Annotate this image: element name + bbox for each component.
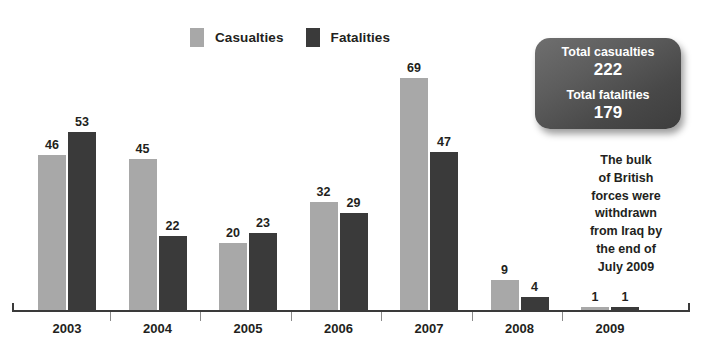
x-axis-line — [12, 310, 690, 312]
annotation-line-3: withdrawn — [556, 205, 696, 223]
bar-casualties-2005 — [219, 243, 247, 310]
bar-casualties-2006 — [310, 202, 338, 310]
bar-casualties-2003 — [38, 155, 66, 310]
bar-casualties-2004 — [129, 159, 157, 310]
bar-casualties-2007 — [400, 78, 428, 310]
bar-value-fatalities-2008: 4 — [515, 280, 555, 294]
x-axis-tick — [200, 312, 201, 321]
x-axis-tick — [291, 312, 292, 321]
bar-fatalities-2004 — [159, 236, 187, 310]
x-axis-label-2005: 2005 — [205, 321, 291, 336]
bar-casualties-2009 — [581, 307, 609, 310]
bar-fatalities-2008 — [521, 297, 549, 310]
bar-value-fatalities-2009: 1 — [605, 290, 645, 304]
x-axis-tick — [381, 312, 382, 321]
annotation-line-4: from Iraq by — [556, 223, 696, 241]
bar-value-fatalities-2006: 29 — [334, 196, 374, 210]
withdrawal-annotation: The bulkof Britishforces werewithdrawnfr… — [556, 152, 696, 276]
bar-value-casualties-2003: 46 — [32, 138, 72, 152]
annotation-line-2: forces were — [556, 188, 696, 206]
annotation-line-5: the end of — [556, 241, 696, 259]
x-axis-tick — [472, 312, 473, 321]
x-axis-tick — [562, 312, 563, 321]
bar-value-fatalities-2004: 22 — [153, 219, 193, 233]
x-axis-start-cap — [12, 303, 14, 312]
total-fatalities-value: 179 — [594, 103, 622, 122]
bar-fatalities-2007 — [430, 152, 458, 310]
x-axis-label-2008: 2008 — [477, 321, 563, 336]
bar-value-fatalities-2005: 23 — [243, 216, 283, 230]
total-casualties-value: 222 — [594, 60, 622, 79]
bar-fatalities-2006 — [340, 213, 368, 310]
x-axis-end-cap — [688, 303, 690, 312]
bar-value-casualties-2008: 9 — [485, 263, 525, 277]
bar-chart: Casualties Fatalities 465320034522200420… — [0, 0, 706, 358]
annotation-line-0: The bulk — [556, 152, 696, 170]
x-axis-label-2004: 2004 — [115, 321, 201, 336]
annotation-line-1: of British — [556, 170, 696, 188]
x-axis-tick — [110, 312, 111, 321]
bar-value-fatalities-2003: 53 — [62, 115, 102, 129]
x-axis-label-2006: 2006 — [296, 321, 382, 336]
bar-value-casualties-2004: 45 — [123, 142, 163, 156]
bar-value-casualties-2007: 69 — [394, 61, 434, 75]
total-casualties-caption: Total casualties — [562, 45, 655, 59]
bar-fatalities-2009 — [611, 307, 639, 310]
x-axis-label-2009: 2009 — [567, 321, 653, 336]
bar-value-fatalities-2007: 47 — [424, 135, 464, 149]
annotation-line-6: July 2009 — [556, 259, 696, 277]
x-axis-label-2003: 2003 — [24, 321, 110, 336]
total-fatalities-caption: Total fatalities — [566, 88, 649, 102]
totals-box: Total casualties 222 Total fatalities 17… — [535, 38, 681, 129]
x-axis-label-2007: 2007 — [386, 321, 472, 336]
bar-fatalities-2003 — [68, 132, 96, 310]
bar-fatalities-2005 — [249, 233, 277, 310]
